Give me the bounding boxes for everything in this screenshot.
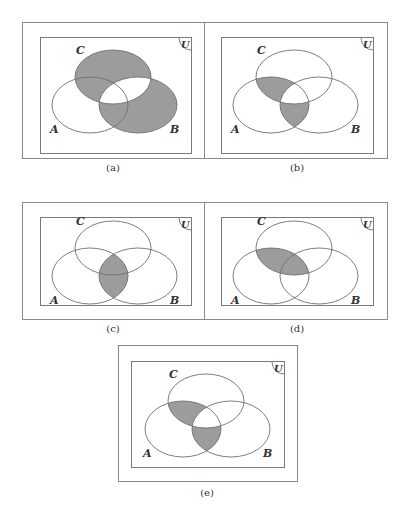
label-c: C [76, 44, 85, 57]
panel-c: C A B U [41, 215, 192, 307]
label-a: A [49, 123, 59, 136]
label-a: A [230, 123, 240, 136]
universe-label: U [181, 39, 191, 50]
label-c: C [169, 368, 178, 381]
universe-label: U [363, 39, 373, 50]
panel-b: U C A B [222, 38, 374, 154]
label-c: C [76, 215, 85, 228]
universe-label: U [274, 363, 284, 374]
panel-d: C A B U [222, 215, 374, 307]
label-a: A [49, 294, 59, 307]
label-b: B [262, 447, 272, 460]
label-c: C [257, 44, 266, 57]
panel-a: U C A B [41, 38, 192, 154]
label-a: A [142, 447, 152, 460]
caption-a: (a) [106, 162, 120, 173]
panel-e: C A B U [132, 362, 285, 468]
label-a: A [230, 294, 240, 307]
universe-label: U [181, 219, 191, 230]
label-b: B [169, 123, 179, 136]
label-b: B [350, 123, 360, 136]
label-b: B [350, 294, 360, 307]
venn-figure: U C A B (a) U C A B (b) C A [0, 0, 408, 517]
caption-b: (b) [290, 162, 304, 173]
label-b: B [169, 294, 179, 307]
caption-d: (d) [290, 323, 304, 334]
universe-label: U [363, 219, 373, 230]
caption-c: (c) [106, 323, 120, 334]
caption-e: (e) [200, 487, 214, 498]
label-c: C [257, 215, 266, 228]
set-b-ellipse [280, 248, 358, 304]
